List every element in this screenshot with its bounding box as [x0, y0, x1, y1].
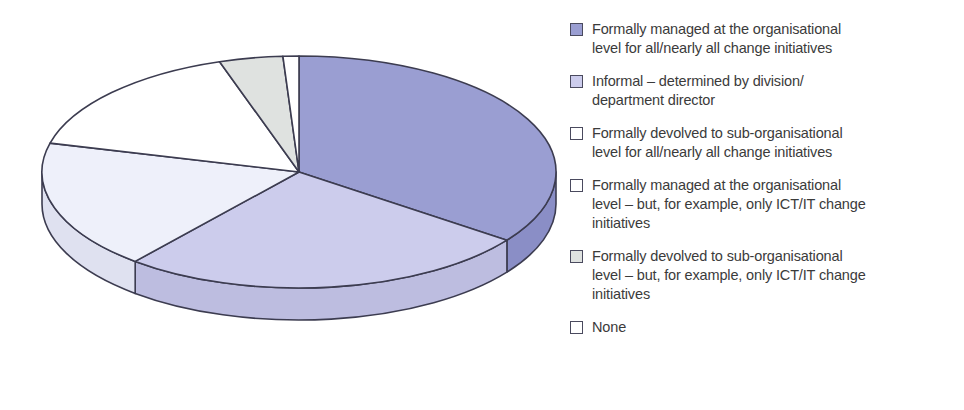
legend-swatch-icon: [570, 127, 583, 140]
pie-chart-svg: [0, 0, 580, 410]
legend-item-label: Formally managed at the organisational l…: [592, 176, 866, 233]
pie-chart-figure: Formally managed at the organisational l…: [0, 0, 964, 410]
legend-swatch-icon: [570, 23, 583, 36]
legend-item-label: Informal – determined by division/ depar…: [592, 72, 804, 110]
legend-swatch-icon: [570, 75, 583, 88]
legend-item-label: None: [592, 318, 626, 337]
legend-swatch-icon: [570, 179, 583, 192]
legend-item-formally-managed-organisational-all[interactable]: Formally managed at the organisational l…: [570, 20, 964, 58]
legend-item-label: Formally managed at the organisational l…: [592, 20, 841, 58]
chart-legend: Formally managed at the organisational l…: [570, 20, 964, 400]
legend-item-formally-devolved-sub-organisational-all[interactable]: Formally devolved to sub-organisational …: [570, 124, 964, 162]
legend-item-informal-division-department-director[interactable]: Informal – determined by division/ depar…: [570, 72, 964, 110]
legend-item-formally-managed-organisational-ict-it[interactable]: Formally managed at the organisational l…: [570, 176, 964, 233]
legend-item-label: Formally devolved to sub-organisational …: [592, 124, 842, 162]
legend-swatch-icon: [570, 321, 583, 334]
pie-chart-plot-area: [0, 0, 580, 410]
legend-item-formally-devolved-sub-organisational-ict-it[interactable]: Formally devolved to sub-organisational …: [570, 247, 964, 304]
legend-item-label: Formally devolved to sub-organisational …: [592, 247, 866, 304]
legend-swatch-icon: [570, 250, 583, 263]
legend-item-none[interactable]: None: [570, 318, 964, 337]
